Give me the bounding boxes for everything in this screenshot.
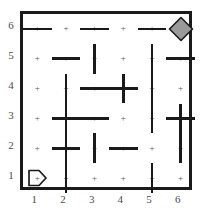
column-label-6: 6 (170, 194, 186, 205)
column-label-3: 3 (84, 194, 100, 205)
column-label-5: 5 (141, 194, 157, 205)
maze-markers (23, 14, 189, 187)
row-label-2: 2 (3, 140, 19, 151)
goal-diamond-icon (168, 16, 194, 42)
start-arrow-icon (26, 168, 48, 188)
column-label-4: 4 (112, 194, 128, 205)
row-label-6: 6 (3, 20, 19, 31)
row-label-5: 5 (3, 50, 19, 61)
maze-figure: 654321 123456 ++++++++++++++++++++++++++… (0, 0, 204, 215)
maze-board: ++++++++++++++++++++++++++++++++++++ (20, 11, 192, 190)
row-label-1: 1 (3, 170, 19, 181)
row-label-3: 3 (3, 110, 19, 121)
row-label-4: 4 (3, 80, 19, 91)
column-label-2: 2 (55, 194, 71, 205)
column-label-1: 1 (26, 194, 42, 205)
